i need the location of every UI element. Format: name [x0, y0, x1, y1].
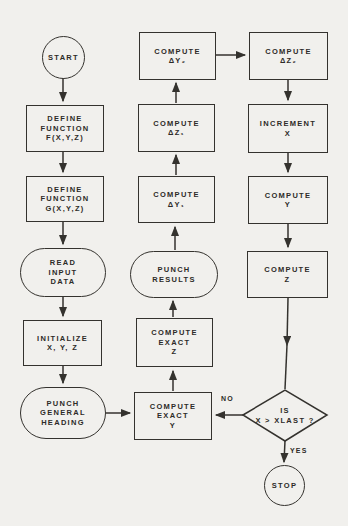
connector-compute-z-to-decision-upper: [287, 298, 288, 345]
node-label: COMPUTE Y: [265, 191, 312, 210]
connector-compute-z-to-decision-lower: [285, 345, 287, 389]
flowchart-canvas: START DEFINE FUNCTION F(X,Y,Z) DEFINE FU…: [0, 0, 348, 526]
node-label: DEFINE FUNCTION G(X,Y,Z): [40, 185, 89, 214]
node-label: COMPUTE Z: [264, 265, 311, 284]
flow-node-punch-general-heading: PUNCH GENERAL HEADING: [20, 387, 106, 439]
node-label: COMPUTE ΔZ₂: [265, 47, 312, 66]
flow-node-start: START: [42, 36, 85, 79]
flow-node-compute-delta-y1: COMPUTE ΔY₁: [138, 176, 215, 223]
node-label: READ INPUT DATA: [49, 258, 78, 287]
node-label: PUNCH RESULTS: [152, 265, 196, 284]
flow-node-punch-results: PUNCH RESULTS: [130, 251, 218, 298]
node-label: DEFINE FUNCTION F(X,Y,Z): [40, 114, 89, 143]
flow-node-compute-delta-y2: COMPUTE ΔY₂: [139, 32, 216, 80]
node-label: INITIALIZE X, Y, Z: [37, 334, 88, 353]
flow-node-increment-x: INCREMENT X: [248, 104, 328, 153]
flow-node-define-function-f: DEFINE FUNCTION F(X,Y,Z): [26, 105, 104, 152]
node-label: STOP: [272, 481, 297, 491]
connector-decision-yes-to-stop: [284, 441, 285, 462]
node-label: INCREMENT X: [260, 119, 316, 138]
edge-label-yes: YES: [290, 447, 308, 454]
flow-node-compute-exact-z: COMPUTE EXACT Z: [136, 318, 213, 367]
flow-node-stop: STOP: [264, 465, 305, 506]
node-label: COMPUTE EXACT Z: [151, 328, 198, 357]
flow-node-compute-delta-z1: COMPUTE ΔZ₁: [138, 104, 215, 152]
flow-node-compute-y: COMPUTE Y: [248, 176, 328, 224]
flow-node-compute-delta-z2: COMPUTE ΔZ₂: [249, 32, 328, 80]
node-label: COMPUTE ΔZ₁: [153, 119, 200, 138]
flow-node-decision-x-xlast: IS X > XLAST ?: [244, 397, 326, 434]
node-label: COMPUTE EXACT Y: [150, 402, 197, 431]
node-label: COMPUTE ΔY₂: [154, 47, 201, 66]
flow-node-read-input-data: READ INPUT DATA: [20, 248, 106, 297]
node-label: PUNCH GENERAL HEADING: [40, 399, 86, 428]
node-label: COMPUTE ΔY₁: [153, 190, 200, 209]
flow-node-compute-exact-y: COMPUTE EXACT Y: [134, 392, 212, 440]
edge-label-no: NO: [221, 395, 234, 402]
flow-node-initialize: INITIALIZE X, Y, Z: [23, 320, 102, 366]
flow-node-compute-z: COMPUTE Z: [247, 251, 328, 298]
node-label: IS X > XLAST ?: [255, 406, 314, 425]
flow-node-define-function-g: DEFINE FUNCTION G(X,Y,Z): [26, 176, 104, 222]
node-label: START: [48, 53, 79, 63]
